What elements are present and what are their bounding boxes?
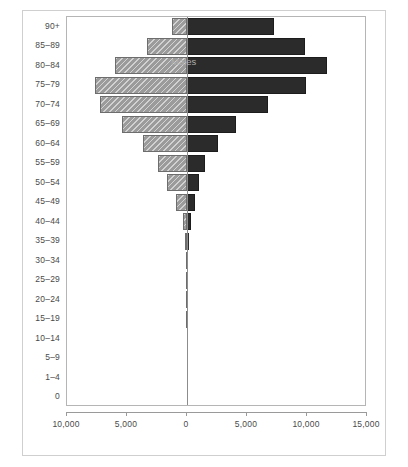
series-label-males: Males [171, 56, 196, 67]
x-axis-tick-label: 0 [184, 419, 189, 429]
y-axis-tick-label: 25–29 [4, 274, 60, 284]
bars-container [67, 17, 365, 405]
bar-male [158, 155, 187, 172]
zero-axis-line [187, 17, 188, 405]
y-axis-tick-label: 90+ [4, 21, 60, 31]
bar-female [187, 174, 199, 191]
x-axis-tick [66, 412, 67, 416]
y-axis-tick-label: 85–89 [4, 40, 60, 50]
bar-female [187, 18, 274, 35]
bar-male [95, 77, 187, 94]
x-axis-tick-label: 5,000 [235, 419, 257, 429]
bar-male [147, 38, 187, 55]
y-axis-tick-label: 40–44 [4, 216, 60, 226]
x-axis-tick-label: 15,000 [352, 419, 379, 429]
bar-female [187, 194, 195, 211]
x-axis-tick [246, 412, 247, 416]
y-axis-tick-label: 30–34 [4, 255, 60, 265]
bar-male [172, 18, 187, 35]
x-axis-tick [186, 412, 187, 416]
bar-male [176, 194, 187, 211]
bar-female [187, 57, 327, 74]
y-axis-tick-label: 15–19 [4, 313, 60, 323]
bar-male [100, 96, 187, 113]
y-axis-tick-label: 35–39 [4, 235, 60, 245]
bar-female [187, 155, 205, 172]
bar-female [187, 77, 306, 94]
y-axis-tick-label: 5–9 [4, 352, 60, 362]
y-axis-tick-label: 65–69 [4, 118, 60, 128]
x-axis-tick [126, 412, 127, 416]
y-axis-tick-label: 0 [4, 391, 60, 401]
y-axis-tick-label: 60–64 [4, 138, 60, 148]
plot-area: Males Females [66, 16, 366, 406]
bar-male [167, 174, 187, 191]
y-axis-tick-label: 80–84 [4, 60, 60, 70]
bar-female [187, 135, 218, 152]
y-axis-tick-label: 70–74 [4, 99, 60, 109]
y-axis-tick-label: 55–59 [4, 157, 60, 167]
y-axis-tick-label: 45–49 [4, 196, 60, 206]
y-axis-tick-label: 50–54 [4, 177, 60, 187]
y-axis-tick-label: 20–24 [4, 294, 60, 304]
x-axis-tick-label: 10,000 [292, 419, 319, 429]
x-axis-tick [306, 412, 307, 416]
bar-female [187, 116, 236, 133]
x-axis-tick-label: 5,000 [115, 419, 137, 429]
y-axis-tick-label: 1–4 [4, 372, 60, 382]
bar-female [187, 96, 268, 113]
x-axis-line [66, 412, 366, 413]
y-axis-tick-label: 10–14 [4, 333, 60, 343]
x-axis-tick [366, 412, 367, 416]
x-axis-tick-label: 10,000 [52, 419, 79, 429]
y-axis-tick-label: 75–79 [4, 79, 60, 89]
bar-male [122, 116, 187, 133]
bar-female [187, 38, 305, 55]
population-pyramid-figure: 90+85–8980–8475–7970–7465–6960–6455–5950… [0, 0, 408, 467]
bar-male [143, 135, 187, 152]
